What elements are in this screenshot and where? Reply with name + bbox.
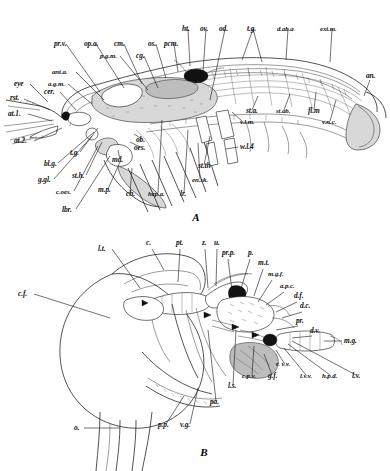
anatomy-label-ht: ht. bbox=[182, 24, 190, 33]
anatomy-label-coes: c.oes. bbox=[56, 188, 71, 195]
anatomy-label-z: z. bbox=[201, 238, 207, 247]
anatomy-label-os: os. bbox=[148, 39, 156, 48]
anatomy-label-lr: lr. bbox=[180, 189, 186, 198]
anatomy-label-dv: d.v. bbox=[310, 326, 320, 335]
anatomy-label-pgm: p.g.m. bbox=[99, 52, 117, 59]
anatomy-label-sth: st.h. bbox=[71, 171, 84, 180]
anatomy-label-anta: ant.a. bbox=[52, 68, 68, 75]
anatomy-label-cm: cm. bbox=[114, 39, 125, 48]
anatomy-label-tg_top: t.g. bbox=[247, 24, 256, 33]
anatomy-label-ggl: g.gl. bbox=[37, 175, 51, 184]
anatomy-label-stth: st.th bbox=[197, 161, 210, 170]
anatomy-label-eye: eye bbox=[14, 79, 24, 88]
anatomy-label-o: o. bbox=[74, 423, 80, 432]
anatomy-label-vlm: v.l.m. bbox=[240, 118, 255, 125]
anatomy-label-lvv: l.v.v. bbox=[300, 372, 312, 379]
anatomy-label-ch: ch. bbox=[126, 189, 135, 198]
anatomy-label-mg: m.g. bbox=[344, 336, 357, 345]
anatomy-label-c: c. bbox=[146, 238, 151, 247]
anatomy-label-flm: fl.m bbox=[308, 106, 320, 115]
anatomy-label-pp: p.p. bbox=[157, 420, 169, 429]
anatomy-label-at2: at.2. bbox=[14, 136, 27, 145]
anatomical-plate: eyerst.at.1.at.2.cer.a.g.m.ant.a.pr.v.op… bbox=[0, 0, 390, 471]
anatomy-label-ls: l.s. bbox=[228, 381, 236, 390]
anatomy-label-lt: l.t. bbox=[98, 244, 106, 253]
anatomy-label-agm: a.g.m. bbox=[48, 80, 65, 87]
anatomy-label-od: od. bbox=[219, 24, 228, 33]
anatomy-label-df: d.f. bbox=[294, 291, 304, 300]
anatomy-label-vg: v.g. bbox=[180, 420, 190, 429]
anatomy-label-rvv: r. v.v. bbox=[276, 360, 290, 367]
anatomy-label-cf: c.f. bbox=[18, 289, 27, 298]
anatomy-label-tg_low: t.g. bbox=[70, 148, 79, 157]
anatomy-label-pcm: pcm. bbox=[163, 39, 178, 48]
anatomy-label-wl4: w.l.4 bbox=[240, 142, 254, 151]
anatomy-label-ov: ov. bbox=[200, 24, 209, 33]
anatomy-label-prp: pr.p. bbox=[221, 248, 235, 257]
anatomy-label-cpv: c.p.v. bbox=[242, 372, 256, 379]
anatomy-label-extm: ext.m. bbox=[320, 25, 337, 32]
anatomy-label-mp: m.p. bbox=[98, 185, 111, 194]
anatomy-label-gf: g.f. bbox=[267, 371, 278, 380]
anatomy-label-pa: pa. bbox=[209, 397, 219, 406]
anatomy-label-ensk: en.sk. bbox=[192, 176, 208, 183]
anatomy-label-daba: d.ab.a bbox=[277, 25, 294, 32]
anatomy-label-prv: pr.v. bbox=[53, 39, 67, 48]
anatomy-label-ob: ob. bbox=[136, 135, 145, 144]
anatomy-label-lv: l.v. bbox=[352, 371, 361, 380]
anatomy-label-vnc: v.n.c. bbox=[322, 118, 337, 125]
anatomy-label-hepa: hep.a. bbox=[148, 190, 165, 197]
anatomy-label-hpd: h.p.d. bbox=[322, 372, 338, 379]
anatomy-label-oes: oes. bbox=[134, 143, 146, 152]
anatomy-label-md: md. bbox=[112, 155, 123, 164]
anatomy-label-mt: m.t. bbox=[258, 258, 269, 267]
anatomy-label-mgf: m.g.f. bbox=[268, 270, 284, 277]
anatomy-label-p: p. bbox=[247, 248, 254, 257]
anatomy-label-stab: st.ab. bbox=[275, 107, 291, 114]
anatomy-label-lbr: lbr. bbox=[62, 205, 72, 214]
anatomy-label-dc: d.c. bbox=[300, 301, 311, 310]
anatomy-label-u: u. bbox=[214, 238, 220, 247]
anatomy-label-apc: a.p.c. bbox=[280, 282, 295, 289]
anatomy-label-sta: st.a. bbox=[245, 106, 258, 115]
anatomy-label-cg: cg. bbox=[136, 51, 145, 60]
anatomy-label-an: an. bbox=[366, 71, 376, 80]
anatomy-label-opa: op.a. bbox=[84, 39, 99, 48]
anatomy-label-pt: pt. bbox=[175, 238, 184, 247]
figure-b-caption: B bbox=[199, 446, 207, 458]
anatomy-label-at1: at.1. bbox=[8, 109, 21, 118]
figure-a-caption: A bbox=[191, 211, 199, 223]
anatomy-label-pr: pr. bbox=[295, 316, 304, 325]
anatomy-label-cer: cer. bbox=[44, 87, 55, 96]
anatomy-label-rst: rst. bbox=[10, 93, 20, 102]
anatomy-label-blg: bl.g. bbox=[44, 159, 57, 168]
